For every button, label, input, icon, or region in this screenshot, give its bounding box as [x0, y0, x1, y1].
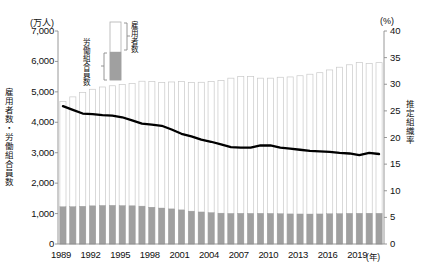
bar-union-members — [287, 214, 293, 244]
left-axis-tick-label: 3,000 — [16, 147, 54, 158]
bar-union-members — [99, 205, 105, 244]
bar-union-members — [366, 213, 372, 244]
left-axis-tick-label: 6,000 — [16, 55, 54, 66]
right-axis-tick-label: 10 — [390, 185, 401, 196]
bar-union-members — [307, 214, 313, 244]
bar-union-members — [60, 207, 66, 244]
right-axis-tick-label: 35 — [390, 52, 401, 63]
x-axis-tick-label: 2001 — [169, 249, 189, 260]
x-axis-tick-label: 1998 — [140, 249, 160, 260]
bar-union-members — [139, 206, 145, 244]
bar-union-members — [109, 205, 115, 244]
bar-union-members — [346, 213, 352, 244]
x-axis-tick-label: 1992 — [81, 249, 101, 260]
bar-union-members — [257, 213, 263, 244]
bar-union-members — [277, 214, 283, 244]
bar-union-members — [218, 213, 224, 244]
right-axis-tick-label: 15 — [390, 158, 401, 169]
bar-union-members — [169, 209, 175, 244]
left-axis-tick-label: 7,000 — [16, 25, 54, 36]
chart-container: (万人) (%) 雇用者数・労働組合員数 推定組織率 (年) 雇用者数 労働組合… — [0, 0, 422, 270]
right-axis-tick-label: 20 — [390, 132, 401, 143]
bar-union-members — [336, 214, 342, 244]
right-axis-tick-label: 5 — [390, 211, 395, 222]
x-axis-tick-label: 2016 — [318, 249, 338, 260]
right-axis-tick-label: 40 — [390, 25, 401, 36]
bar-union-members — [129, 206, 135, 244]
x-axis-tick-label: 2010 — [258, 249, 278, 260]
x-axis-tick-label: 2019 — [347, 249, 367, 260]
bar-union-members — [376, 213, 382, 244]
x-axis-tick-label: 2004 — [199, 249, 219, 260]
x-axis-tick-label: 1995 — [110, 249, 130, 260]
bar-union-members — [149, 207, 155, 244]
bar-union-members — [70, 207, 76, 244]
left-axis-tick-label: 5,000 — [16, 86, 54, 97]
bar-union-members — [297, 214, 303, 244]
bar-union-members — [188, 211, 194, 244]
bar-union-members — [317, 214, 323, 244]
bar-union-members — [238, 213, 244, 244]
right-axis-tick-label: 30 — [390, 78, 401, 89]
bar-union-members — [159, 208, 165, 244]
bar-union-members — [228, 213, 234, 244]
right-axis-tick-label: 25 — [390, 105, 401, 116]
bar-union-members — [356, 213, 362, 244]
bar-union-members — [248, 213, 254, 244]
x-axis-tick-label: 2007 — [229, 249, 249, 260]
left-axis-tick-label: 1,000 — [16, 208, 54, 219]
x-axis-tick-label: 1989 — [51, 249, 71, 260]
x-axis-tick-label: 2013 — [288, 249, 308, 260]
bar-union-members — [80, 206, 86, 244]
bar-union-members — [178, 210, 184, 244]
left-axis-tick-label: 4,000 — [16, 116, 54, 127]
bar-union-members — [208, 213, 214, 244]
left-axis-tick-label: 2,000 — [16, 177, 54, 188]
right-axis-tick-label: 0 — [390, 238, 395, 249]
chart-plot-area — [0, 0, 422, 270]
bar-union-members — [267, 213, 273, 244]
bar-union-members — [327, 214, 333, 244]
bar-union-members — [119, 206, 125, 244]
bar-union-members — [90, 206, 96, 244]
left-axis-tick-label: 0 — [16, 238, 54, 249]
bar-union-members — [198, 212, 204, 244]
